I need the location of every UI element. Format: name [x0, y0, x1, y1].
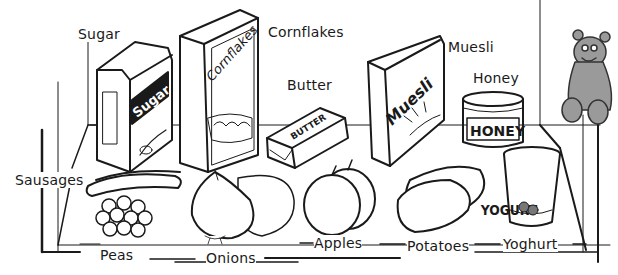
potatoes — [398, 167, 485, 232]
label-sugar: Sugar — [78, 26, 120, 42]
yogurt-cup: YOGURT — [480, 147, 560, 226]
label-apples: Apples — [314, 235, 362, 251]
muesli-box: Muesli — [368, 36, 444, 166]
cornflakes-box: Cornflakes — [180, 10, 261, 172]
apples — [304, 160, 375, 235]
label-onions: Onions — [206, 250, 256, 266]
label-peas: Peas — [100, 247, 133, 263]
label-honey: Honey — [473, 70, 519, 86]
label-potatoes: Potatoes — [407, 238, 469, 254]
peas — [96, 196, 152, 237]
honey-jar-text: HONEY — [470, 123, 526, 139]
label-yoghurt: Yoghurt — [503, 236, 558, 252]
teddy-bear — [562, 30, 611, 124]
label-muesli: Muesli — [448, 39, 494, 55]
label-butter: Butter — [287, 77, 332, 93]
label-sausages: Sausages — [15, 172, 84, 188]
sausages — [87, 171, 181, 196]
honey-jar: HONEY — [463, 92, 526, 147]
sugar-box: Sugar — [97, 42, 173, 172]
butter-pack: BUTTER — [267, 108, 348, 168]
fridge-illustration: Sugar Cornflakes BUTTER — [0, 0, 618, 275]
label-cornflakes: Cornflakes — [268, 24, 344, 40]
onions — [192, 170, 294, 244]
